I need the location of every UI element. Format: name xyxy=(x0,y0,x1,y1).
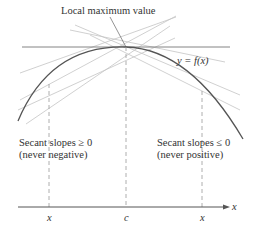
label-pointer xyxy=(110,17,126,47)
curve-label: y = f(x) xyxy=(177,55,209,66)
tick-label-c: c xyxy=(124,212,129,223)
tick-label-left-x: x xyxy=(47,212,52,223)
x-axis-arrow-icon xyxy=(223,205,230,210)
right-note-line1: Secant slopes ≤ 0 xyxy=(157,137,230,148)
tick-label-right-x: x xyxy=(200,212,205,223)
local-max-diagram xyxy=(0,0,255,228)
left-note-line2: (never negative) xyxy=(19,149,88,160)
right-note-line2: (never positive) xyxy=(157,149,223,160)
local-max-label: Local maximum value xyxy=(61,5,155,16)
left-note-line1: Secant slopes ≥ 0 xyxy=(19,137,92,148)
x-axis-label: x xyxy=(232,201,237,212)
curve-fx xyxy=(18,47,243,139)
secant-lines xyxy=(18,16,240,124)
